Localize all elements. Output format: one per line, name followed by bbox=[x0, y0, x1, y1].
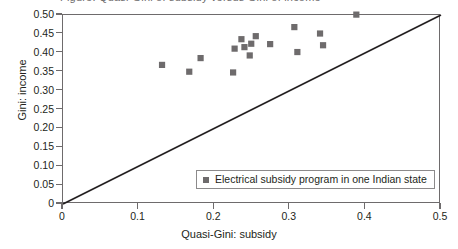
data-point-marker bbox=[197, 55, 203, 61]
data-point-marker bbox=[267, 41, 273, 47]
x-tick-label: 0.5 bbox=[420, 211, 458, 222]
y-tick-label: 0.10 bbox=[10, 160, 54, 171]
data-point-marker bbox=[159, 62, 165, 68]
data-point-marker bbox=[186, 69, 192, 75]
x-tick-mark bbox=[364, 203, 365, 209]
x-tick-mark bbox=[137, 203, 138, 209]
x-tick-mark bbox=[213, 203, 214, 209]
x-tick-label: 0.2 bbox=[193, 211, 233, 222]
cut-off-title-strip: Figure: Quasi-Gini of subsidy versus Gin… bbox=[0, 0, 458, 7]
y-tick-label: 0.15 bbox=[10, 141, 54, 152]
y-tick-label: 0 bbox=[10, 198, 54, 209]
x-tick-label: 0.3 bbox=[269, 211, 309, 222]
legend-marker-icon bbox=[203, 177, 209, 183]
y-tick-label: 0.25 bbox=[10, 104, 54, 115]
y-tick-label: 0.45 bbox=[10, 28, 54, 39]
legend-entry-label: Electrical subsidy program in one Indian… bbox=[215, 174, 427, 185]
data-point-marker bbox=[238, 36, 244, 42]
x-tick-label: 0.4 bbox=[344, 211, 384, 222]
data-point-marker bbox=[317, 30, 323, 36]
data-point-group bbox=[159, 12, 359, 76]
y-tick-label: 0.30 bbox=[10, 85, 54, 96]
x-tick-label: 0 bbox=[42, 211, 82, 222]
chart-legend: Electrical subsidy program in one Indian… bbox=[196, 170, 435, 189]
x-axis-title: Quasi-Gini: subsidy bbox=[0, 228, 458, 240]
y-tick-label: 0.35 bbox=[10, 66, 54, 77]
y-tick-label: 0.05 bbox=[10, 179, 54, 190]
x-axis-tick-labels: 00.10.20.30.40.5 bbox=[0, 211, 458, 225]
y-tick-label: 0.50 bbox=[10, 9, 54, 20]
x-tick-mark bbox=[61, 203, 62, 209]
y-tick-label: 0.40 bbox=[10, 47, 54, 58]
figure-title: Figure: Quasi-Gini of subsidy versus Gin… bbox=[60, 0, 321, 3]
data-point-marker bbox=[232, 46, 238, 52]
data-point-marker bbox=[248, 41, 254, 47]
data-point-marker bbox=[241, 44, 247, 50]
data-point-marker bbox=[230, 69, 236, 75]
x-tick-label: 0.1 bbox=[118, 211, 158, 222]
data-point-marker bbox=[294, 49, 300, 55]
data-point-marker bbox=[291, 24, 297, 30]
x-tick-mark bbox=[288, 203, 289, 209]
data-point-marker bbox=[320, 42, 326, 48]
y-tick-label: 0.20 bbox=[10, 122, 54, 133]
x-tick-mark bbox=[439, 203, 440, 209]
data-point-marker bbox=[253, 33, 259, 39]
data-point-marker bbox=[247, 52, 253, 58]
data-point-marker bbox=[353, 12, 359, 18]
scatter-chart-figure: Figure: Quasi-Gini of subsidy versus Gin… bbox=[0, 0, 458, 249]
